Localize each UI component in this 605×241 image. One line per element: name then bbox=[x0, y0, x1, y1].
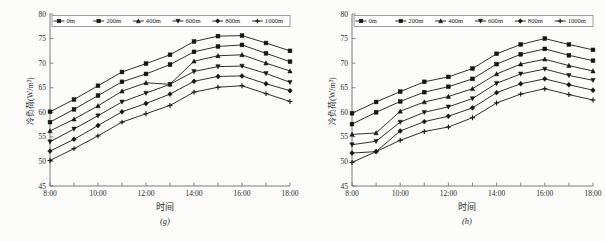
data-point-marker bbox=[192, 70, 196, 74]
x-tick-label: 14:00 bbox=[185, 189, 202, 198]
legend-label-600m: 600m bbox=[186, 17, 202, 24]
data-point-marker bbox=[240, 43, 244, 47]
data-point-marker bbox=[96, 123, 101, 128]
x-tick-label: 18:00 bbox=[281, 189, 298, 198]
data-point-marker bbox=[422, 119, 427, 124]
data-point-marker bbox=[57, 19, 61, 23]
data-point-marker bbox=[48, 158, 53, 163]
x-tick-label: 12:00 bbox=[137, 189, 154, 198]
data-point-marker bbox=[48, 120, 52, 124]
data-point-marker bbox=[471, 77, 475, 81]
data-point-marker bbox=[591, 78, 595, 82]
data-point-marker bbox=[519, 43, 523, 47]
y-tick-label: 80 bbox=[39, 10, 47, 19]
data-point-marker bbox=[471, 67, 475, 71]
data-point-marker bbox=[72, 127, 76, 131]
data-point-marker bbox=[543, 76, 548, 81]
data-point-marker bbox=[216, 85, 221, 90]
data-point-marker bbox=[543, 37, 547, 41]
legend-label-200m: 200m bbox=[106, 17, 122, 24]
figure-sheet: 45505560657075808:0010:0012:0014:0016:00… bbox=[0, 0, 605, 241]
chart-panel-h: 45505560657075808:0010:0012:0014:0016:00… bbox=[302, 0, 605, 241]
data-point-marker bbox=[350, 122, 354, 126]
data-point-marker bbox=[240, 34, 244, 38]
data-point-marker bbox=[264, 81, 269, 86]
y-axis-title-g: 冷负荷(W/m²) bbox=[24, 77, 35, 125]
x-tick-label: 10:00 bbox=[89, 189, 106, 198]
data-point-marker bbox=[144, 72, 148, 76]
data-point-marker bbox=[192, 79, 197, 84]
y-tick-label: 60 bbox=[341, 108, 349, 117]
legend-label-400m: 400m bbox=[146, 17, 162, 24]
x-tick-label: 14:00 bbox=[488, 189, 505, 198]
data-point-marker bbox=[216, 34, 220, 38]
x-tick-label: 16:00 bbox=[233, 189, 250, 198]
legend-label-800m: 800m bbox=[225, 17, 241, 24]
data-point-marker bbox=[567, 53, 571, 57]
data-point-marker bbox=[374, 100, 378, 104]
data-point-marker bbox=[144, 101, 149, 106]
data-point-marker bbox=[494, 81, 498, 85]
line-chart-h: 45505560657075808:0010:0012:0014:0016:00… bbox=[302, 0, 605, 200]
data-point-marker bbox=[48, 149, 53, 154]
data-point-marker bbox=[350, 160, 355, 165]
y-tick-label: 70 bbox=[341, 59, 349, 68]
legend-label-1000m: 1000m bbox=[568, 17, 587, 24]
data-point-marker bbox=[398, 100, 402, 104]
y-tick-label: 75 bbox=[39, 34, 47, 43]
data-point-marker bbox=[374, 110, 378, 114]
data-point-marker bbox=[470, 105, 475, 110]
data-point-marker bbox=[494, 100, 499, 105]
x-tick-label: 16:00 bbox=[536, 189, 553, 198]
data-point-marker bbox=[446, 125, 451, 130]
data-point-marker bbox=[447, 85, 451, 89]
data-point-marker bbox=[518, 81, 523, 86]
data-point-marker bbox=[591, 98, 596, 103]
x-axis-title-g: 时间 bbox=[40, 200, 290, 213]
data-point-marker bbox=[350, 151, 355, 156]
data-point-marker bbox=[97, 19, 101, 23]
data-point-marker bbox=[96, 104, 100, 108]
data-point-marker bbox=[288, 88, 293, 93]
data-point-marker bbox=[192, 90, 197, 95]
data-point-marker bbox=[519, 52, 523, 56]
data-point-marker bbox=[495, 62, 499, 66]
data-point-marker bbox=[240, 83, 245, 88]
legend-label-1000m: 1000m bbox=[265, 17, 284, 24]
data-point-marker bbox=[359, 19, 363, 23]
data-point-marker bbox=[422, 80, 426, 84]
data-point-marker bbox=[470, 115, 475, 120]
data-point-marker bbox=[120, 100, 124, 104]
data-point-marker bbox=[72, 137, 77, 142]
data-point-marker bbox=[398, 90, 402, 94]
y-tick-label: 55 bbox=[39, 132, 47, 141]
legend-label-200m: 200m bbox=[408, 17, 424, 24]
legend-label-0m: 0m bbox=[369, 17, 378, 24]
y-tick-label: 50 bbox=[39, 157, 47, 166]
data-point-marker bbox=[216, 45, 220, 49]
x-tick-label: 8:00 bbox=[345, 189, 359, 198]
y-axis-title-h: 冷负荷(W/m²) bbox=[326, 77, 337, 125]
y-tick-label: 65 bbox=[39, 83, 47, 92]
data-point-marker bbox=[168, 92, 173, 97]
data-point-marker bbox=[288, 49, 292, 53]
data-point-marker bbox=[494, 90, 499, 95]
x-tick-label: 12:00 bbox=[440, 189, 457, 198]
data-point-marker bbox=[591, 48, 595, 52]
data-point-marker bbox=[288, 60, 292, 64]
series-line-0m bbox=[50, 36, 290, 112]
y-tick-label: 80 bbox=[341, 10, 349, 19]
data-point-marker bbox=[72, 146, 77, 151]
series-line-0m bbox=[352, 39, 593, 114]
y-tick-label: 70 bbox=[39, 59, 47, 68]
y-tick-label: 50 bbox=[341, 157, 349, 166]
data-point-marker bbox=[48, 140, 52, 144]
data-point-marker bbox=[422, 129, 427, 134]
data-point-marker bbox=[264, 51, 268, 55]
y-tick-label: 55 bbox=[341, 132, 349, 141]
data-point-marker bbox=[144, 62, 148, 66]
data-point-marker bbox=[72, 107, 76, 111]
data-point-marker bbox=[120, 80, 124, 84]
y-tick-label: 75 bbox=[341, 34, 349, 43]
legend-label-0m: 0m bbox=[67, 17, 76, 24]
